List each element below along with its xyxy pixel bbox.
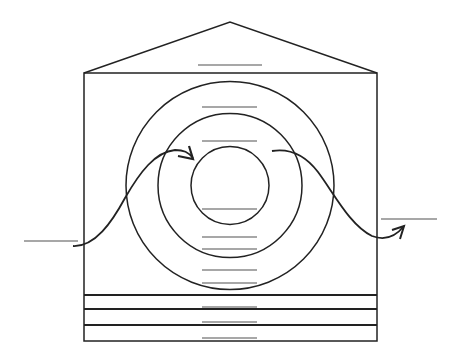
outer-circle xyxy=(126,82,334,290)
outgoing-arrow-curve xyxy=(272,150,404,238)
middle-circle xyxy=(158,114,302,258)
inner-circle xyxy=(191,147,269,225)
diagram-canvas xyxy=(0,0,462,361)
diagram-svg xyxy=(0,0,462,361)
